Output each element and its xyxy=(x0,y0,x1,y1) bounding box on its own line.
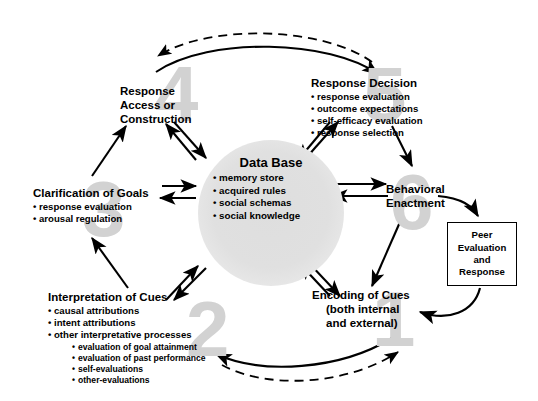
database-content: Data Base memory store acquired rules so… xyxy=(198,155,344,223)
peer-box-line: and xyxy=(458,254,507,266)
node-subitem-list: evaluation of goal attainment evaluation… xyxy=(48,342,206,385)
node-title-line: Enactment xyxy=(386,196,445,210)
node-item: response selection xyxy=(311,127,423,139)
node-title: Clarification of Goals xyxy=(33,186,149,200)
peer-evaluation-box: Peer Evaluation and Response xyxy=(447,222,517,286)
database-item: memory store xyxy=(213,172,344,185)
database-item: acquired rules xyxy=(213,185,344,198)
database-item: social schemas xyxy=(213,197,344,210)
node-subitem: evaluation of goal attainment xyxy=(72,342,206,353)
node-behavioral-enactment: Behavioral Enactment xyxy=(386,182,445,210)
node-item: response evaluation xyxy=(33,201,149,213)
node-encoding-of-cues: Encoding of Cues (both internal and exte… xyxy=(312,288,410,330)
peer-evaluation-text: Peer Evaluation and Response xyxy=(458,229,507,279)
node-title-line: Response xyxy=(120,84,192,98)
database-title: Data Base xyxy=(198,155,344,170)
node-title: Interpretation of Cues xyxy=(48,290,206,304)
node-item: causal attributions xyxy=(48,305,206,317)
node-subitem: other-evaluations xyxy=(72,375,206,386)
node-item-list: causal attributions intent attributions … xyxy=(48,305,206,341)
peer-box-line: Evaluation xyxy=(458,242,507,254)
node-item-list: response evaluation outcome expectations… xyxy=(311,91,423,139)
node-subitem: evaluation of past performance xyxy=(72,353,206,364)
diagram-canvas: 4 5 3 6 2 1 Data Base memory store acqui… xyxy=(0,0,538,401)
node-title-line: Behavioral xyxy=(386,182,445,196)
node-interpretation-of-cues: Interpretation of Cues causal attributio… xyxy=(48,290,206,386)
node-title-line: and external) xyxy=(312,316,410,330)
node-item: self-efficacy evaluation xyxy=(311,115,423,127)
peer-box-line: Response xyxy=(458,266,507,278)
node-item: other interpretative processes xyxy=(48,329,206,341)
node-title-line: Access or xyxy=(120,98,192,112)
node-item: response evaluation xyxy=(311,91,423,103)
peer-box-line: Peer xyxy=(458,229,507,241)
node-subitem: self-evaluations xyxy=(72,364,206,375)
arrow-peer-box-to-1 xyxy=(420,288,480,316)
node-item: intent attributions xyxy=(48,317,206,329)
node-clarification-of-goals: Clarification of Goals response evaluati… xyxy=(33,186,149,225)
node-item: arousal regulation xyxy=(33,213,149,225)
node-response-access-construction: Response Access or Construction xyxy=(120,84,192,126)
node-title-line: Encoding of Cues xyxy=(312,288,410,302)
node-response-decision: Response Decision response evaluation ou… xyxy=(311,76,423,139)
node-item-list: response evaluation arousal regulation xyxy=(33,201,149,225)
node-title-line: Construction xyxy=(120,112,192,126)
node-title: Response Decision xyxy=(311,76,423,90)
node-item: outcome expectations xyxy=(311,103,423,115)
node-title-line: (both internal xyxy=(312,302,410,316)
database-item: social knowledge xyxy=(213,210,344,223)
database-item-list: memory store acquired rules social schem… xyxy=(198,172,344,223)
arrow-1-to-2-solid xyxy=(216,338,392,367)
